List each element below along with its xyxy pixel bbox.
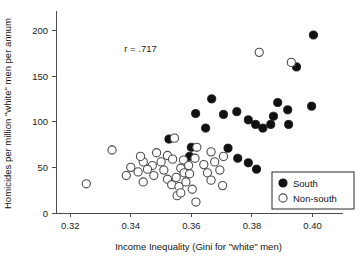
scatter-plot-figure: 0501001502000.320.340.360.380.40Income I… <box>0 0 362 256</box>
y-tick-label: 50 <box>37 162 48 173</box>
point-non-south <box>188 185 196 193</box>
point-non-south <box>150 171 158 179</box>
x-tick-label: 0.40 <box>303 220 322 231</box>
point-south <box>284 106 292 114</box>
chart-canvas: 0501001502000.320.340.360.380.40Income I… <box>0 0 362 256</box>
point-south <box>309 31 317 39</box>
point-south <box>252 165 260 173</box>
point-non-south <box>160 166 168 174</box>
point-non-south <box>82 180 90 188</box>
point-non-south <box>207 176 215 184</box>
x-axis-title: Income Inequality (Gini for "white" men) <box>115 241 282 252</box>
point-south <box>267 120 275 128</box>
point-non-south <box>182 178 190 186</box>
point-non-south <box>185 161 193 169</box>
point-non-south <box>122 171 130 179</box>
point-non-south <box>255 48 263 56</box>
point-non-south <box>218 182 226 190</box>
point-non-south <box>170 134 178 142</box>
point-non-south <box>169 155 177 163</box>
point-non-south <box>172 173 180 181</box>
annotations: r = .717 <box>124 43 156 54</box>
legend-filled-circle-icon <box>279 179 287 187</box>
point-south <box>244 159 252 167</box>
point-non-south <box>287 58 295 66</box>
x-tick-label: 0.36 <box>182 220 201 231</box>
point-non-south <box>157 158 165 166</box>
x-tick-label: 0.38 <box>243 220 262 231</box>
point-south <box>224 144 232 152</box>
point-non-south <box>216 166 224 174</box>
axes: 0501001502000.320.340.360.380.40Income I… <box>2 11 343 252</box>
chart-legend: SouthNon-south <box>272 172 354 209</box>
x-tick-label: 0.34 <box>122 220 141 231</box>
point-non-south <box>143 165 151 173</box>
legend-label: South <box>293 178 318 189</box>
legend-open-circle-icon <box>279 194 287 202</box>
correlation-annotation: r = .717 <box>124 43 156 54</box>
point-south <box>208 95 216 103</box>
point-non-south <box>136 152 144 160</box>
y-axis-title: Homicides per million "white" men per an… <box>2 18 13 209</box>
point-non-south <box>152 149 160 157</box>
point-non-south <box>127 163 135 171</box>
point-non-south <box>192 198 200 206</box>
point-south <box>274 98 282 106</box>
point-non-south <box>185 170 193 178</box>
point-non-south <box>134 168 142 176</box>
point-south <box>259 124 267 132</box>
point-non-south <box>193 143 201 151</box>
legend-label: Non-south <box>293 193 337 204</box>
point-south <box>308 102 316 110</box>
point-south <box>269 112 277 120</box>
y-tick-label: 0 <box>43 208 48 219</box>
point-non-south <box>211 158 219 166</box>
y-tick-label: 150 <box>32 71 48 82</box>
point-south <box>219 110 227 118</box>
point-south <box>202 124 210 132</box>
point-non-south <box>219 152 227 160</box>
point-non-south <box>177 189 185 197</box>
point-south <box>244 116 252 124</box>
y-tick-label: 200 <box>32 25 48 36</box>
point-non-south <box>139 178 147 186</box>
point-south <box>234 154 242 162</box>
point-non-south <box>207 148 215 156</box>
point-south <box>285 120 293 128</box>
y-tick-label: 100 <box>32 116 48 127</box>
x-tick-label: 0.32 <box>61 220 80 231</box>
point-south <box>233 108 241 116</box>
point-non-south <box>200 161 208 169</box>
point-non-south <box>108 146 116 154</box>
point-non-south <box>191 154 199 162</box>
point-south <box>192 109 200 117</box>
